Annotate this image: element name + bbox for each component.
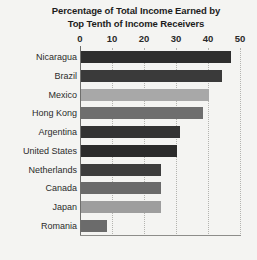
bar-hong-kong xyxy=(81,107,203,119)
x-tick-label-10: 10 xyxy=(107,33,118,44)
chart-title: Percentage of Total Income Earned by Top… xyxy=(22,5,250,30)
bar-rows: NicaraguaBrazilMexicoHong KongArgentinaU… xyxy=(0,48,257,235)
x-tick-label-0: 0 xyxy=(77,33,82,44)
bar-row: Canada xyxy=(0,179,257,198)
category-label-mexico: Mexico xyxy=(0,90,77,100)
bar-united-states xyxy=(81,145,177,157)
bar-row: Mexico xyxy=(0,85,257,104)
bar-canada xyxy=(81,182,161,194)
bar-row: Nicaragua xyxy=(0,48,257,67)
category-label-canada: Canada xyxy=(0,183,77,193)
bar-netherlands xyxy=(81,164,161,176)
bar-nicaragua xyxy=(81,51,231,63)
bar-row: Hong Kong xyxy=(0,104,257,123)
bar-argentina xyxy=(81,126,180,138)
bar-row: Argentina xyxy=(0,123,257,142)
bar-brazil xyxy=(81,70,222,82)
bar-romania xyxy=(81,220,107,232)
category-label-nicaragua: Nicaragua xyxy=(0,52,77,62)
x-tick-label-30: 30 xyxy=(171,33,182,44)
category-label-argentina: Argentina xyxy=(0,127,77,137)
category-label-brazil: Brazil xyxy=(0,71,77,81)
bar-row: Netherlands xyxy=(0,160,257,179)
x-axis-baseline xyxy=(80,235,241,236)
x-tick-label-50: 50 xyxy=(235,33,246,44)
category-label-japan: Japan xyxy=(0,202,77,212)
x-axis-tick-labels: 01020304050 xyxy=(0,33,257,47)
category-label-united-states: United States xyxy=(0,146,77,156)
chart-title-line-1: Percentage of Total Income Earned by xyxy=(22,5,250,18)
x-tick-label-40: 40 xyxy=(203,33,214,44)
bar-row: United States xyxy=(0,142,257,161)
bar-row: Romania xyxy=(0,216,257,235)
bar-chart: Percentage of Total Income Earned by Top… xyxy=(0,0,257,260)
bar-row: Brazil xyxy=(0,67,257,86)
category-label-netherlands: Netherlands xyxy=(0,165,77,175)
category-label-romania: Romania xyxy=(0,221,77,231)
chart-title-line-2: Top Tenth of Income Receivers xyxy=(22,18,250,31)
bar-mexico xyxy=(81,89,209,101)
category-label-hong-kong: Hong Kong xyxy=(0,108,77,118)
x-tick-label-20: 20 xyxy=(139,33,150,44)
bar-japan xyxy=(81,201,161,213)
bar-row: Japan xyxy=(0,198,257,217)
